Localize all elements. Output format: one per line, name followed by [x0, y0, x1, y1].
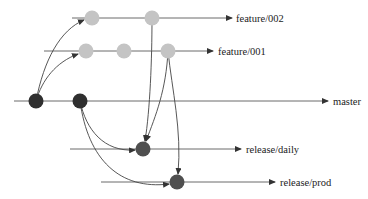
commit-node-rp1 [170, 175, 185, 190]
commit-node-f2a [85, 11, 100, 26]
branch-lines [14, 18, 328, 182]
branch-label-feature-002: feature/002 [236, 13, 284, 24]
commit-node-f1b [117, 44, 132, 59]
commit-node-f1a [79, 44, 94, 59]
commit-node-f2b [145, 11, 160, 26]
commit-node-rd1 [136, 142, 151, 157]
merge-arrow-f2b-to-rd1 [145, 18, 152, 141]
commit-node-f1c [161, 44, 176, 59]
branch-label-release-daily: release/daily [246, 144, 300, 155]
merge-arrow-f1c-to-rp1 [168, 51, 179, 174]
branch-label-master: master [333, 96, 361, 107]
git-branch-diagram: feature/002feature/001masterrelease/dail… [0, 0, 368, 199]
branch-labels: feature/002feature/001masterrelease/dail… [218, 13, 361, 188]
commit-nodes [29, 11, 185, 190]
merge-arrow-f1c-to-rd1 [146, 51, 168, 141]
branch-label-feature-001: feature/001 [218, 46, 266, 57]
commit-node-m2 [73, 94, 88, 109]
merge-arrow-m1-to-f2a [36, 20, 84, 101]
merge-arrow-m2-to-rd1 [80, 101, 135, 150]
commit-node-m1 [29, 94, 44, 109]
branch-label-release-prod: release/prod [280, 177, 332, 188]
